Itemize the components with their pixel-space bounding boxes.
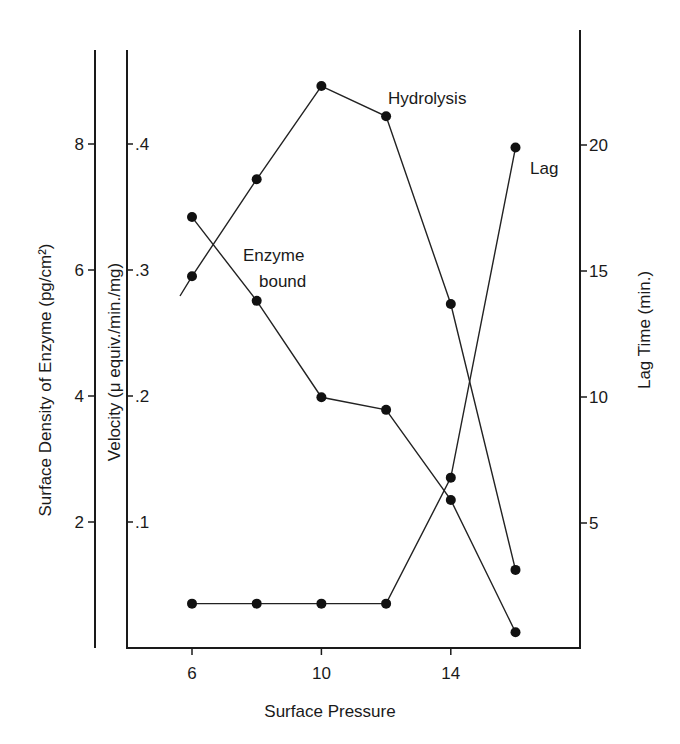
y-tick-label-velocity: .2 bbox=[135, 387, 149, 406]
data-point bbox=[316, 392, 326, 402]
y-tick-label-lag: 5 bbox=[589, 514, 598, 533]
data-point bbox=[511, 565, 521, 575]
data-point bbox=[446, 495, 456, 505]
data-point bbox=[381, 111, 391, 121]
data-point bbox=[316, 599, 326, 609]
data-point bbox=[511, 143, 521, 153]
y-axis-label-velocity: Velocity (μ equiv./min./mg) bbox=[105, 263, 124, 461]
y-tick-label-surface-density: 8 bbox=[75, 135, 84, 154]
chart-container: 2468.1.2.3.4510152061014 Surface Pressur… bbox=[0, 0, 680, 744]
y-axis-label-lag-time: Lag Time (min.) bbox=[635, 271, 654, 389]
x-tick-label: 6 bbox=[187, 664, 196, 683]
y-tick-label-surface-density: 4 bbox=[75, 387, 84, 406]
data-point bbox=[187, 599, 197, 609]
series-label-lag: Lag bbox=[530, 159, 558, 178]
data-point bbox=[252, 599, 262, 609]
y-tick-label-lag: 10 bbox=[589, 388, 608, 407]
data-point bbox=[381, 405, 391, 415]
y-tick-label-surface-density: 6 bbox=[75, 261, 84, 280]
series-hydrolysis bbox=[180, 81, 521, 575]
data-point bbox=[316, 81, 326, 91]
series-line bbox=[192, 148, 516, 604]
data-point bbox=[252, 174, 262, 184]
series-line bbox=[192, 217, 516, 632]
series-line bbox=[180, 86, 516, 570]
y-tick-label-velocity: .3 bbox=[135, 261, 149, 280]
data-point bbox=[446, 299, 456, 309]
series-label-hydrolysis: Hydrolysis bbox=[388, 89, 466, 108]
series-label-enzyme-line2: bound bbox=[259, 272, 306, 291]
y-tick-label-lag: 20 bbox=[589, 136, 608, 155]
x-tick-label: 10 bbox=[312, 664, 331, 683]
data-series bbox=[180, 81, 521, 637]
chart-svg: 2468.1.2.3.4510152061014 Surface Pressur… bbox=[0, 0, 680, 744]
data-point bbox=[252, 296, 262, 306]
axis-ticks: 2468.1.2.3.4510152061014 bbox=[75, 135, 608, 683]
series-label-enzyme-line1: Enzyme bbox=[243, 246, 304, 265]
x-axis-label: Surface Pressure bbox=[264, 702, 395, 721]
y-tick-label-surface-density: 2 bbox=[75, 513, 84, 532]
y-axis-label-surface-density: Surface Density of Enzyme (pg/cm²) bbox=[36, 243, 55, 516]
data-point bbox=[187, 271, 197, 281]
data-point bbox=[446, 473, 456, 483]
y-tick-label-velocity: .4 bbox=[135, 135, 149, 154]
series-enzyme-bound bbox=[187, 212, 521, 637]
y-tick-label-lag: 15 bbox=[589, 262, 608, 281]
x-tick-label: 14 bbox=[441, 664, 460, 683]
data-point bbox=[381, 599, 391, 609]
data-point bbox=[511, 627, 521, 637]
data-point bbox=[187, 212, 197, 222]
y-tick-label-velocity: .1 bbox=[135, 513, 149, 532]
